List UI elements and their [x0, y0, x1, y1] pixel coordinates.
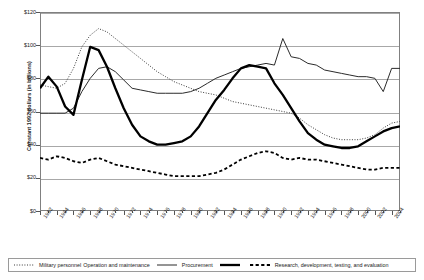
x-tick-label: 1982 [209, 206, 221, 219]
x-tick-label: 1996 [326, 206, 338, 219]
x-tick-label: 1966 [75, 206, 87, 219]
x-tick-mark [90, 211, 91, 215]
chart-legend: Military personnelOperation and maintena… [8, 258, 416, 272]
x-tick-label: 1978 [175, 206, 187, 219]
x-tick-label: 2004 [393, 206, 405, 219]
x-tick-label: 1962 [42, 206, 54, 219]
legend-item[interactable]: Procurement [182, 262, 245, 268]
legend-label: Research, development, testing, and eval… [275, 262, 391, 268]
x-tick-label: 1970 [108, 206, 120, 219]
x-tick-label: 1990 [276, 206, 288, 219]
x-tick-label: 2002 [376, 206, 388, 219]
x-tick-mark [274, 211, 275, 215]
x-tick-label: 1964 [58, 206, 70, 219]
x-tick-label: 1976 [159, 206, 171, 219]
x-tick-mark [291, 211, 292, 215]
x-tick-label: 1994 [309, 206, 321, 219]
x-tick-label: 1980 [192, 206, 204, 219]
x-tick-mark [40, 211, 41, 215]
x-tick-label: 1992 [293, 206, 305, 219]
legend-item[interactable]: Military personnel [9, 262, 83, 268]
dashed-swatch [249, 262, 271, 268]
x-tick-mark [73, 211, 74, 215]
x-tick-mark [207, 211, 208, 215]
x-tick-label: 1968 [92, 206, 104, 219]
legend-label: Operation and maintenance [83, 262, 152, 268]
x-tick-label: 1974 [142, 206, 154, 219]
x-tick-mark [358, 211, 359, 215]
legend-item[interactable]: Research, development, testing, and eval… [245, 262, 391, 268]
x-tick-label: 2000 [360, 206, 372, 219]
thick-solid-swatch [219, 262, 241, 268]
x-tick-mark [157, 211, 158, 215]
legend-item[interactable]: Operation and maintenance [83, 262, 182, 268]
fine-dotted-swatch [13, 262, 35, 268]
x-tick-mark [341, 211, 342, 215]
x-tick-label: 1984 [226, 206, 238, 219]
legend-label: Military personnel [39, 262, 83, 268]
x-tick-mark [140, 211, 141, 215]
x-tick-label: 1988 [259, 206, 271, 219]
legend-label: Procurement [182, 262, 215, 268]
thin-solid-swatch [156, 262, 178, 268]
x-tick-label: 1998 [343, 206, 355, 219]
x-tick-mark [224, 211, 225, 215]
x-axis-tick-labels: 1962196419661968197019721974197619781980… [0, 0, 424, 280]
x-tick-label: 1986 [242, 206, 254, 219]
defense-spending-line-chart: Constant 1992 dollars (in billions) $0$2… [0, 0, 424, 280]
x-tick-label: 1972 [125, 206, 137, 219]
